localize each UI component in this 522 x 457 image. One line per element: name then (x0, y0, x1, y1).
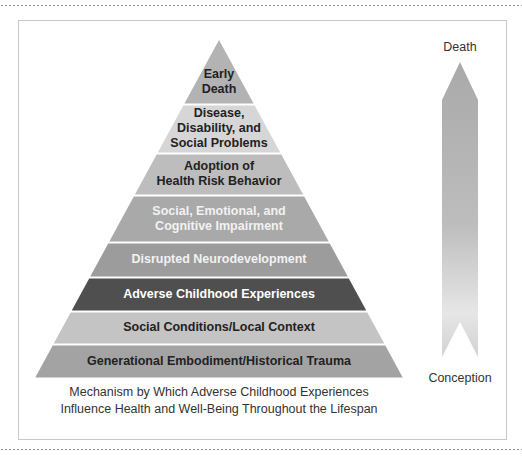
pyramid-layer-label-line: Health Risk Behavior (156, 174, 281, 189)
lifespan-arrow-icon (442, 62, 478, 357)
arrow-top-label: Death (443, 40, 476, 54)
pyramid-layer-label: Social Conditions/Local Context (123, 320, 315, 335)
pyramid-layer-label: EarlyDeath (202, 67, 237, 97)
pyramid-layer-label: Adoption ofHealth Risk Behavior (156, 159, 281, 189)
pyramid-layer-label-line: Cognitive Impairment (152, 219, 285, 234)
pyramid-layer-label-line: Death (202, 82, 237, 97)
pyramid-layer-label-line: Adverse Childhood Experiences (123, 287, 315, 302)
pyramid-layer-label-line: Disability, and (170, 121, 267, 136)
pyramid-layer-label-line: Disease, (170, 106, 267, 121)
pyramid-layer-label-line: Social, Emotional, and (152, 204, 285, 219)
pyramid-layer-label: Generational Embodiment/Historical Traum… (87, 354, 351, 369)
pyramid-layer-label-line: Generational Embodiment/Historical Traum… (87, 354, 351, 369)
pyramid-layer-label-line: Social Conditions/Local Context (123, 320, 315, 335)
pyramid-layer-label: Adverse Childhood Experiences (123, 287, 315, 302)
pyramid-layer-label-line: Adoption of (156, 159, 281, 174)
caption-line-2: Influence Health and Well-Being Througho… (60, 401, 377, 418)
pyramid-layer-label-line: Disrupted Neurodevelopment (131, 252, 306, 267)
pyramid-layer-label: Disease,Disability, andSocial Problems (170, 106, 267, 151)
pyramid-layer-label-line: Early (202, 67, 237, 82)
pyramid-layer-label: Social, Emotional, andCognitive Impairme… (152, 204, 285, 234)
caption-line-1: Mechanism by Which Adverse Childhood Exp… (60, 384, 377, 401)
pyramid-layer-label-line: Social Problems (170, 136, 267, 151)
figure-caption: Mechanism by Which Adverse Childhood Exp… (60, 384, 377, 418)
arrow-bottom-label: Conception (428, 371, 491, 385)
pyramid-layer-label: Disrupted Neurodevelopment (131, 252, 306, 267)
